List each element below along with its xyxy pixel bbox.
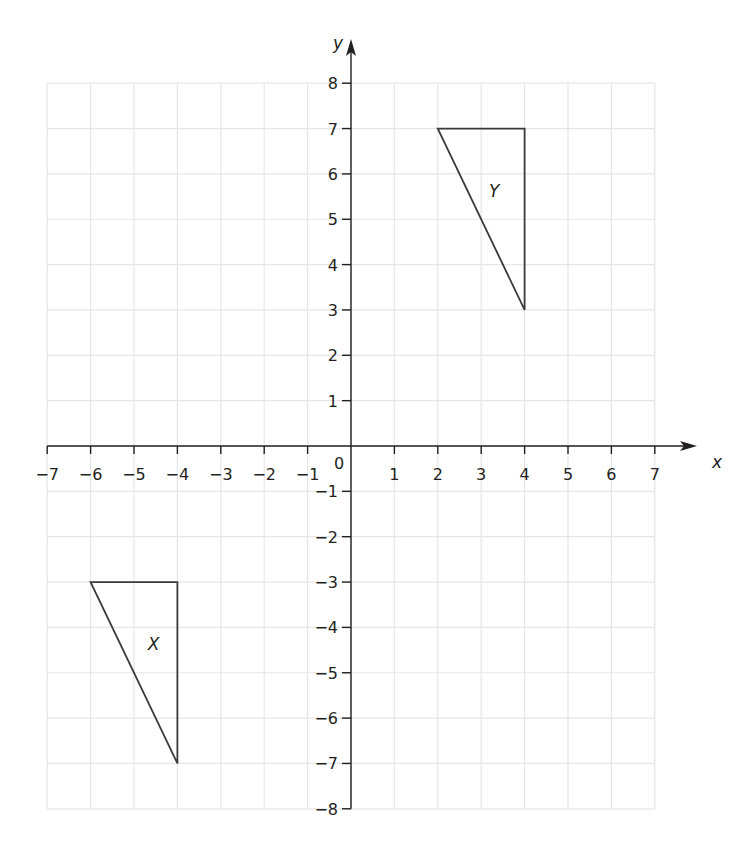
- coordinate-plane: −7−6−5−4−3−2−1123456787654321−1−2−3−4−5−…: [0, 0, 736, 847]
- x-tick-label: −1: [296, 465, 320, 484]
- y-axis-label: y: [332, 33, 344, 53]
- x-tick-label: 4: [520, 465, 530, 484]
- x-tick-label: 3: [476, 465, 486, 484]
- x-axis-label: x: [711, 452, 723, 472]
- y-tick-label: −8: [314, 800, 338, 819]
- x-tick-label: −5: [122, 465, 146, 484]
- x-tick-label: −4: [166, 465, 190, 484]
- y-tick-label: −4: [314, 618, 338, 637]
- x-tick-label: 7: [650, 465, 660, 484]
- y-tick-label: 4: [328, 256, 338, 275]
- y-tick-label: 1: [328, 392, 338, 411]
- x-tick-label: 2: [433, 465, 443, 484]
- y-tick-label: −7: [314, 754, 338, 773]
- triangle-label-y: Y: [489, 181, 501, 201]
- y-tick-label: 8: [328, 74, 338, 93]
- x-tick-label: 1: [389, 465, 399, 484]
- y-tick-label: 7: [328, 120, 338, 139]
- y-tick-label: −3: [314, 573, 338, 592]
- x-tick-label: −2: [252, 465, 276, 484]
- x-tick-label: −7: [35, 465, 59, 484]
- x-tick-label: −3: [209, 465, 233, 484]
- y-tick-label: −6: [314, 709, 338, 728]
- y-tick-label: 6: [328, 165, 338, 184]
- coordinate-grid-figure: −7−6−5−4−3−2−1123456787654321−1−2−3−4−5−…: [0, 0, 736, 847]
- y-tick-label: 5: [328, 210, 338, 229]
- origin-label: 0: [334, 454, 344, 473]
- y-tick-label: 2: [328, 346, 338, 365]
- y-tick-label: −5: [314, 664, 338, 683]
- x-tick-label: 5: [563, 465, 573, 484]
- x-tick-label: −6: [79, 465, 103, 484]
- y-tick-label: −2: [314, 528, 338, 547]
- y-tick-label: 3: [328, 301, 338, 320]
- x-tick-label: 6: [606, 465, 616, 484]
- y-tick-label: −1: [314, 482, 338, 501]
- triangle-label-x: X: [147, 634, 160, 654]
